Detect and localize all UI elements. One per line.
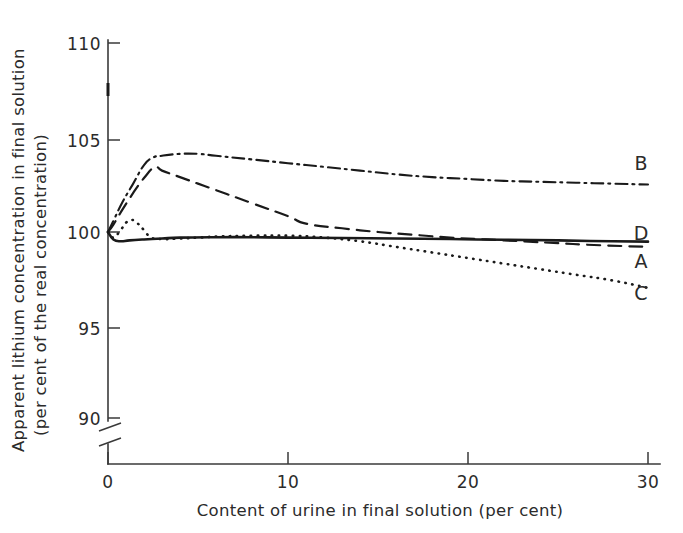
series-label-b: B	[634, 152, 647, 174]
x-axis-ticks	[108, 452, 648, 464]
y-tick-label-100: 100	[67, 223, 101, 243]
y-axis-title-line1: Apparent lithium concentration in final …	[9, 48, 28, 452]
y-tick-label-105: 105	[67, 131, 101, 151]
x-axis-title: Content of urine in final solution (per …	[197, 501, 564, 520]
series-line-c	[108, 220, 648, 288]
x-tick-label-30: 30	[637, 472, 660, 492]
x-tick-label-0: 0	[102, 472, 113, 492]
series-label-c: C	[634, 282, 647, 304]
series-line-d	[108, 232, 648, 242]
chart-canvas: Apparent lithium concentration in final …	[0, 0, 683, 533]
y-tick-label-95: 95	[78, 319, 101, 339]
chart-figure: Apparent lithium concentration in final …	[0, 0, 683, 533]
y-axis-break-marks	[99, 423, 121, 446]
y-tick-label-110: 110	[67, 34, 101, 54]
x-tick-label-10: 10	[277, 472, 300, 492]
series-line-b	[108, 154, 648, 232]
series-label-a: A	[635, 250, 648, 272]
x-tick-label-20: 20	[457, 472, 480, 492]
series-line-a	[108, 166, 648, 246]
series-label-d: D	[634, 222, 649, 244]
y-tick-label-90: 90	[78, 409, 101, 429]
y-axis-title-line2: (per cent of the real concentration)	[31, 134, 50, 436]
